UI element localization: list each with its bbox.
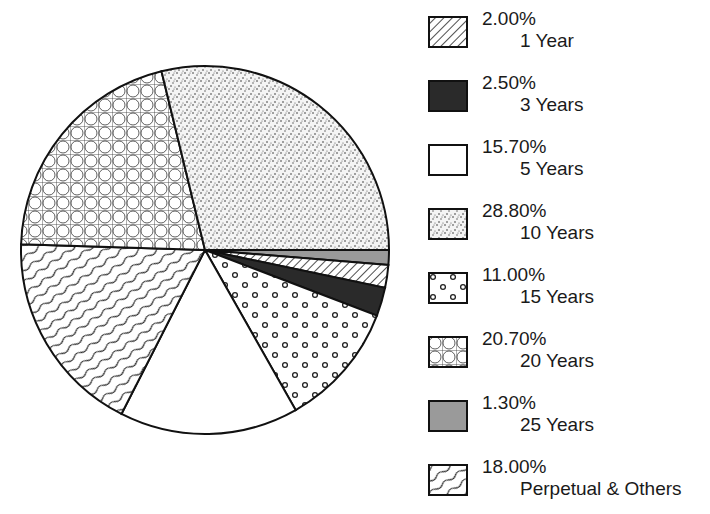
pie-slices	[21, 66, 389, 434]
legend-label: 20 Years	[520, 350, 594, 372]
legend-item-15-years: 11.00% 15 Years	[426, 262, 710, 318]
legend-pct: 20.70%	[482, 328, 546, 350]
legend-pct: 15.70%	[482, 136, 546, 158]
legend-label: 5 Years	[520, 158, 583, 180]
swatch-wavy-icon	[428, 464, 468, 496]
legend-item-1-year: 2.00% 1 Year	[426, 6, 710, 62]
legend-label: 10 Years	[520, 222, 594, 244]
legend-pct: 28.80%	[482, 200, 546, 222]
legend-pct: 2.00%	[482, 8, 536, 30]
legend-item-perpetual: 18.00% Perpetual & Others	[426, 454, 710, 510]
swatch-stipple-icon	[428, 208, 468, 240]
legend-item-25-years: 1.30% 25 Years	[426, 390, 710, 446]
pie-chart	[0, 0, 420, 514]
legend-label: 3 Years	[520, 94, 583, 116]
legend-label: 1 Year	[520, 30, 574, 52]
legend-pct: 11.00%	[482, 264, 545, 286]
legend-pct: 1.30%	[482, 392, 536, 414]
legend-item-10-years: 28.80% 10 Years	[426, 198, 710, 254]
legend-label: Perpetual & Others	[520, 478, 682, 500]
swatch-hatch-icon	[428, 16, 468, 48]
swatch-gray-icon	[428, 400, 468, 432]
swatch-black-icon	[428, 80, 468, 112]
legend-pct: 18.00%	[482, 456, 546, 478]
legend-label: 25 Years	[520, 414, 594, 436]
swatch-white-icon	[428, 144, 468, 176]
legend-label: 15 Years	[520, 286, 594, 308]
swatch-crosshatch-circles-icon	[428, 336, 468, 368]
legend-item-3-years: 2.50% 3 Years	[426, 70, 710, 126]
legend-pct: 2.50%	[482, 72, 536, 94]
swatch-circles-icon	[428, 272, 468, 304]
legend-item-20-years: 20.70% 20 Years	[426, 326, 710, 382]
legend-item-5-years: 15.70% 5 Years	[426, 134, 710, 190]
